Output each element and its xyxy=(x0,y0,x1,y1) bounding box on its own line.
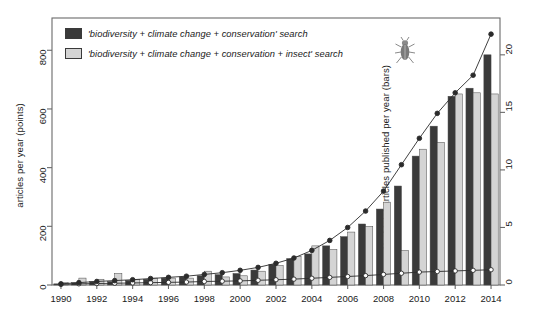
point-marker-open xyxy=(363,273,367,277)
x-axis-tick-label: 2012 xyxy=(445,293,466,304)
point-marker-filled xyxy=(345,225,350,230)
point-marker-open xyxy=(399,271,403,275)
y-axis-left-tick-label: 800 xyxy=(37,50,48,92)
point-marker-filled xyxy=(112,278,117,283)
point-marker-open xyxy=(328,275,332,279)
point-marker-filled xyxy=(417,136,422,141)
point-marker-filled xyxy=(220,270,225,275)
point-marker-open xyxy=(435,269,439,273)
point-marker-open xyxy=(256,278,260,282)
point-marker-filled xyxy=(453,91,458,96)
y-axis-left-tick-label: 0 xyxy=(37,285,48,320)
point-marker-filled xyxy=(77,280,82,285)
bar-dark xyxy=(412,156,419,285)
x-axis-tick-label: 1990 xyxy=(50,293,71,304)
y-axis-left-tick-label: 600 xyxy=(37,108,48,150)
point-marker-open xyxy=(417,270,421,274)
point-marker-open xyxy=(184,280,188,284)
point-marker-filled xyxy=(399,162,404,167)
bar-dark xyxy=(448,96,455,285)
legend-item-1[interactable]: 'biodiversity + climate change + conserv… xyxy=(65,28,308,39)
x-axis-tick-label: 2014 xyxy=(480,293,501,304)
legend-label-2: 'biodiversity + climate change + conserv… xyxy=(88,49,343,59)
y-axis-right-tick-label: 20 xyxy=(503,12,514,54)
point-marker-filled xyxy=(471,73,476,78)
x-axis-tick-label: 2002 xyxy=(265,293,286,304)
point-marker-open xyxy=(489,268,493,272)
bar-light xyxy=(437,142,444,285)
point-marker-filled xyxy=(327,238,332,243)
x-axis-tick-label: 2000 xyxy=(230,293,251,304)
point-marker-filled xyxy=(363,209,368,214)
legend-swatch-1 xyxy=(65,28,82,39)
legend-swatch-2 xyxy=(65,48,82,59)
bar-light xyxy=(455,94,462,285)
point-marker-filled xyxy=(292,256,297,261)
point-marker-filled xyxy=(256,265,261,270)
x-axis-tick-label: 1994 xyxy=(122,293,143,304)
point-marker-open xyxy=(345,274,349,278)
point-marker-filled xyxy=(274,261,279,266)
bar-dark xyxy=(251,270,258,285)
x-axis-tick-label: 1996 xyxy=(158,293,179,304)
y-axis-right-tick-label: 10 xyxy=(503,127,514,169)
point-marker-open xyxy=(310,276,314,280)
y-axis-left-tick-label: 400 xyxy=(37,167,48,209)
x-axis-tick-label: 2008 xyxy=(373,293,394,304)
point-marker-open xyxy=(381,272,385,276)
point-marker-filled xyxy=(148,276,153,281)
y-axis-right-tick-label: 5 xyxy=(503,185,514,227)
x-axis-tick-label: 1992 xyxy=(86,293,107,304)
point-marker-open xyxy=(202,279,206,283)
legend-item-2[interactable]: 'biodiversity + climate change + conserv… xyxy=(65,48,343,59)
bar-dark xyxy=(484,55,491,285)
point-marker-filled xyxy=(381,189,386,194)
point-marker-open xyxy=(292,277,296,281)
chart-figure: articles per year (points) % of total ar… xyxy=(0,0,549,320)
point-marker-open xyxy=(274,278,278,282)
bar-light xyxy=(419,149,426,285)
point-marker-filled xyxy=(166,275,171,280)
point-marker-open xyxy=(238,279,242,283)
bar-light xyxy=(401,250,408,285)
point-marker-filled xyxy=(489,32,494,37)
beetle-icon xyxy=(394,36,416,66)
x-axis-tick-label: 1998 xyxy=(194,293,215,304)
point-marker-open xyxy=(471,268,475,272)
point-marker-filled xyxy=(59,282,64,287)
point-marker-open xyxy=(166,280,170,284)
bar-dark xyxy=(430,126,437,285)
y-axis-right-tick-label: 0 xyxy=(503,243,514,285)
point-marker-filled xyxy=(95,279,100,284)
point-marker-open xyxy=(220,279,224,283)
point-marker-filled xyxy=(238,268,243,273)
point-marker-filled xyxy=(202,272,207,277)
x-axis-tick-label: 2010 xyxy=(409,293,430,304)
bar-dark xyxy=(394,186,401,285)
point-marker-filled xyxy=(310,248,315,253)
y-axis-left-tick-label: 200 xyxy=(37,226,48,268)
point-marker-open xyxy=(453,269,457,273)
bar-light xyxy=(473,93,480,285)
x-axis-tick-label: 2006 xyxy=(337,293,358,304)
point-marker-filled xyxy=(130,277,135,282)
point-marker-filled xyxy=(435,111,440,116)
point-marker-filled xyxy=(184,274,189,279)
legend-label-1: 'biodiversity + climate change + conserv… xyxy=(88,29,308,39)
x-axis-tick-label: 2004 xyxy=(301,293,322,304)
y-axis-right-tick-label: 15 xyxy=(503,70,514,112)
bar-dark xyxy=(466,88,473,285)
bar-light xyxy=(491,94,498,285)
